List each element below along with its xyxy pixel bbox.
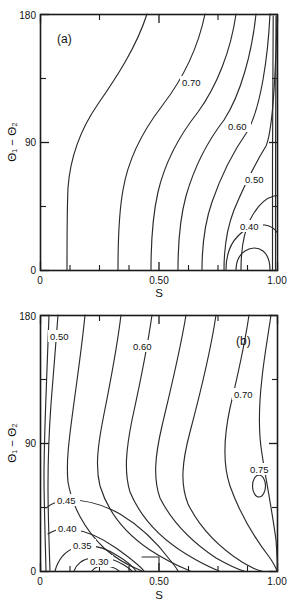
panel-b-contour-b5	[183, 315, 262, 571]
panel-b-label-035: 0.35	[73, 540, 92, 551]
panel-b-label-045: 0.45	[57, 495, 76, 506]
panel-a-label-040: 0.40	[240, 221, 259, 232]
panel-a-yticklabel-0: 0	[30, 265, 36, 276]
panel-b-xticklabel-100: 1.00	[267, 576, 287, 587]
panel-a-contour-edge-2	[276, 16, 277, 270]
panel-b-contour-b4	[156, 315, 244, 571]
panel-a-xticklabel-050: 0.50	[149, 275, 169, 286]
panel-b-yticklabel-90: 90	[25, 438, 37, 449]
panel-b-yaxis-title: Θ₁ − Θ₂	[6, 423, 18, 462]
panel-a-xaxis-title: S	[155, 287, 163, 299]
panel-b-contour-060	[126, 315, 219, 571]
panel-b-label-075: 0.75	[250, 464, 269, 475]
panel-b-xaxis-title: S	[155, 589, 163, 601]
panel-b-yticklabel-180: 180	[19, 311, 36, 322]
panel-b-contour-b2	[97, 315, 190, 571]
panel-b-label-030: 0.30	[90, 556, 109, 567]
panel-a-xticklabel-100: 1.00	[267, 275, 287, 286]
panel-b-xticklabel-050: 0.50	[149, 576, 169, 587]
panel-b-identifier: (b)	[236, 334, 251, 348]
figure-contour-plots: 0.70 0.60 0.50 0.40 (a) 180 90 0 0 0.50 …	[0, 0, 304, 606]
panel-a-yaxis-title: Θ₁ − Θ₂	[6, 122, 18, 161]
panel-a: 0.70 0.60 0.50 0.40 (a) 180 90 0 0 0.50 …	[6, 10, 287, 299]
panel-b-yticklabel-0: 0	[30, 566, 36, 577]
panel-b-label-070: 0.70	[234, 389, 253, 400]
panel-b-contour-step	[142, 557, 159, 571]
panel-b-label-060: 0.60	[133, 341, 152, 352]
panel-a-label-050: 0.50	[245, 174, 264, 185]
panel-a-yticklabel-180: 180	[19, 10, 36, 21]
panel-a-contour-labels: 0.70 0.60 0.50 0.40	[180, 76, 268, 232]
panel-a-label-070: 0.70	[182, 77, 201, 88]
panel-b-label-040: 0.40	[58, 523, 77, 534]
figure-svg: 0.70 0.60 0.50 0.40 (a) 180 90 0 0 0.50 …	[0, 0, 304, 606]
panel-a-identifier: (a)	[57, 32, 72, 46]
panel-b-contour-075-oval	[253, 475, 266, 497]
panel-b-xticklabel-0: 0	[37, 576, 43, 587]
panel-a-xticklabel-0: 0	[37, 275, 43, 286]
panel-b-label-050: 0.50	[50, 331, 69, 342]
panel-b: 0.50 0.60 0.70 0.75 0.45 0.40 0.35 0.30 …	[6, 311, 287, 601]
panel-a-contour-edge-1	[273, 16, 274, 270]
panel-a-contour-1	[67, 14, 147, 270]
panel-a-label-060: 0.60	[228, 121, 247, 132]
panel-a-yticklabel-90: 90	[25, 137, 37, 148]
